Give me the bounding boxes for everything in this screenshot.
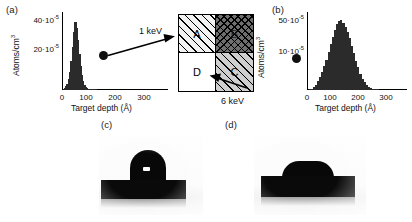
droplet-c (130, 150, 166, 182)
panel-b-xtick-300: 300 (376, 93, 396, 102)
figure-root: (a) 40·10-5 20·10-5 Atoms/cm3 0 100 200 … (0, 0, 412, 222)
panel-b-bars (307, 12, 407, 90)
droplet-c-highlight (143, 167, 150, 171)
panel-label-c: (c) (101, 119, 112, 130)
panel-b-plot (307, 12, 407, 90)
quadrant-c-label: C (231, 66, 239, 78)
photo-panel-d (254, 135, 366, 215)
quadrant-b-label: B (231, 28, 238, 40)
panel-b-ytick-50: 50·10-5 (258, 16, 304, 25)
quadrant-a-label: A (193, 28, 200, 40)
panel-b-callout-dot (292, 54, 301, 63)
panel-b-xtick-100: 100 (320, 93, 340, 102)
panel-b-ylabel: Atoms/cm3 (256, 37, 266, 78)
substrate-c-reflection (101, 199, 186, 208)
panel-label-b: (b) (272, 4, 284, 15)
quadrant-d-label: D (193, 66, 201, 78)
panel-b-xtick-0: 0 (299, 93, 315, 102)
panel-b-xtick-200: 200 (348, 93, 368, 102)
panel-label-d: (d) (225, 119, 237, 130)
substrate-d (261, 176, 355, 197)
histogram-bar (376, 89, 378, 90)
substrate-c (101, 180, 186, 199)
substrate-d-reflection (261, 197, 355, 206)
panel-b-xlabel: Target depth (Å) (315, 103, 376, 113)
photo-panel-c (99, 135, 203, 215)
